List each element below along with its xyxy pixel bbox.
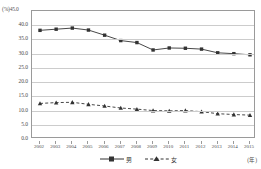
gridline [32,125,254,126]
x-axis-tick-label: 2004 [66,144,76,150]
x-axis-unit-label: (年) [247,157,257,163]
y-axis-tick-label: 30.0 [18,50,28,56]
legend-item-female: 女 [145,155,177,163]
data-point-marker [71,26,74,29]
x-axis-tick-mark [201,141,202,144]
x-axis-tick-label: 2009 [147,144,157,150]
y-axis-tick-label: 0.0 [21,135,28,141]
x-axis-tick-mark [136,141,137,144]
legend-label-male: 男 [126,156,132,163]
chart-legend: 男 女 [0,154,261,166]
y-axis-tick-label: 5.0 [21,121,28,127]
y-axis-tick-labels: 40.035.030.025.020.015.010.05.00.0 [0,0,30,169]
x-axis-tick-label: 2003 [50,144,60,150]
y-axis-tick-label: 25.0 [18,64,28,70]
x-axis-tick-label: 2005 [82,144,92,150]
x-axis-tick-label: 2014 [228,144,238,150]
series-line-male [40,28,250,55]
data-point-marker [215,111,219,115]
dashed-line-triangle-marker-icon [145,155,169,163]
x-axis-tick-mark [217,141,218,144]
data-point-marker [135,41,138,44]
x-axis-tick-mark [104,141,105,144]
data-point-marker [87,28,90,31]
x-axis-tick-label: 2002 [34,144,44,150]
series-lines-svg [32,11,256,139]
solid-line-square-marker-icon [100,155,124,163]
x-axis-tick-mark [152,141,153,144]
line-chart: (%)45.0 40.035.030.025.020.015.010.05.00… [0,0,261,169]
gridline [32,25,254,26]
gridline [32,39,254,40]
data-point-marker [184,47,187,50]
x-axis-tick-mark [71,141,72,144]
x-axis-tick-mark [184,141,185,144]
x-axis-tick-label: 2006 [99,144,109,150]
x-axis-tick-mark [120,141,121,144]
plot-area [31,10,255,138]
x-axis-tick-label: 2008 [131,144,141,150]
gridline [32,82,254,83]
x-axis-tick-label: 2010 [163,144,173,150]
x-axis-tick-mark [55,141,56,144]
y-axis-tick-label: 10.0 [18,107,28,113]
gridline [32,54,254,55]
x-axis-tick-mark [233,141,234,144]
data-point-marker [103,33,106,36]
x-axis-tick-label: 2012 [196,144,206,150]
y-axis-tick-label: 20.0 [18,78,28,84]
gridline [32,96,254,97]
x-axis-tick-label: 2015 [244,144,254,150]
legend-item-male: 男 [100,155,132,163]
x-axis-tick-mark [87,141,88,144]
gridline [32,68,254,69]
x-axis-tick-mark [39,141,40,144]
data-point-marker [168,46,171,49]
data-point-marker [200,47,203,50]
x-axis-tick-label: 2007 [115,144,125,150]
data-point-marker [151,48,154,51]
data-point-marker [38,29,41,32]
x-axis-tick-mark [168,141,169,144]
legend-label-female: 女 [171,156,177,163]
data-point-marker [54,28,57,31]
x-axis-tick-label: 2011 [179,144,189,150]
x-axis-tick-label: 2013 [212,144,222,150]
x-axis-tick-mark [249,141,250,144]
gridline [32,111,254,112]
x-axis-tick-labels: 2002200320042005200620072008200920102011… [31,141,255,151]
y-axis-tick-label: 35.0 [18,35,28,41]
y-axis-tick-label: 15.0 [18,92,28,98]
y-axis-tick-label: 40.0 [18,21,28,27]
